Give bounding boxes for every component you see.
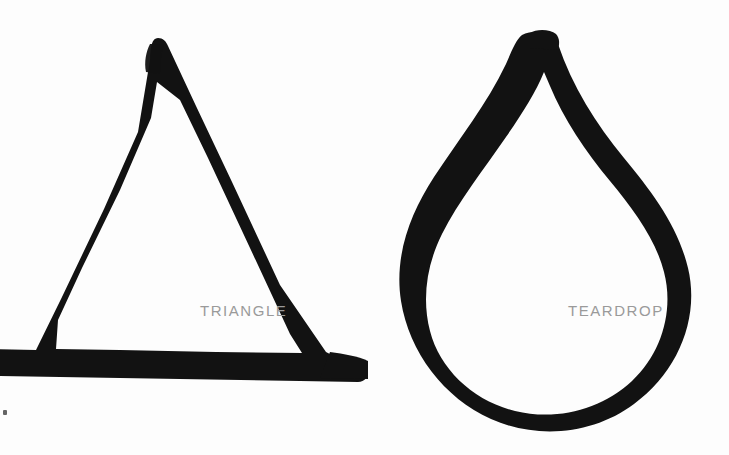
triangle-outline [0, 38, 368, 382]
shape-diagram-canvas: TRIANGLE TEARDROP [0, 0, 729, 455]
triangle-label: TRIANGLE [200, 303, 287, 318]
hand-drawn-shapes-artwork [0, 0, 729, 455]
teardrop-label: TEARDROP [568, 303, 664, 318]
triangle-shape [0, 38, 368, 382]
teardrop-shape [399, 30, 691, 431]
teardrop-tip [530, 30, 559, 50]
ink-speck-icon [3, 410, 7, 415]
teardrop-outline [399, 32, 691, 432]
